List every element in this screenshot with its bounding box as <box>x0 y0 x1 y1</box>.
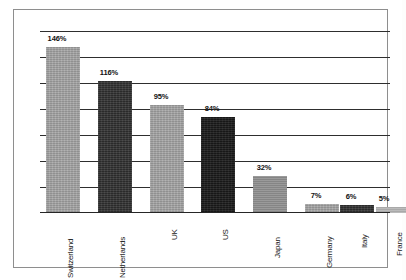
value-label-netherlands: 116% <box>92 68 126 77</box>
category-label-germany: Germany <box>325 237 334 269</box>
x-axis-line <box>40 212 390 213</box>
value-label-uk: 95% <box>144 92 178 101</box>
category-label-uk: UK <box>170 229 179 240</box>
value-label-us: 84% <box>195 104 229 113</box>
bar-uk[interactable] <box>150 105 184 213</box>
chart-border-frame: 146% 116% 95% 84% 32% 7% 6% 5% Switzerla… <box>13 9 388 268</box>
bar-japan[interactable] <box>253 176 287 213</box>
value-label-france: 5% <box>369 194 399 203</box>
value-label-japan: 32% <box>247 163 281 172</box>
bars-layer <box>40 31 390 213</box>
category-label-switzerland: Switzerland <box>66 239 75 278</box>
category-label-japan: Japan <box>273 237 282 258</box>
x-axis-labels: Switzerland Netherlands UK US Japan Germ… <box>40 216 390 280</box>
category-label-us: US <box>221 229 230 240</box>
value-label-germany: 7% <box>299 191 333 200</box>
value-label-italy: 6% <box>334 192 368 201</box>
value-label-switzerland: 146% <box>40 34 74 43</box>
bar-switzerland[interactable] <box>46 47 80 213</box>
category-label-italy: Italy <box>360 234 369 248</box>
bar-netherlands[interactable] <box>98 81 132 213</box>
bar-us[interactable] <box>201 117 235 213</box>
category-label-france: France <box>395 232 404 256</box>
category-label-netherlands: Netherlands <box>118 237 127 278</box>
